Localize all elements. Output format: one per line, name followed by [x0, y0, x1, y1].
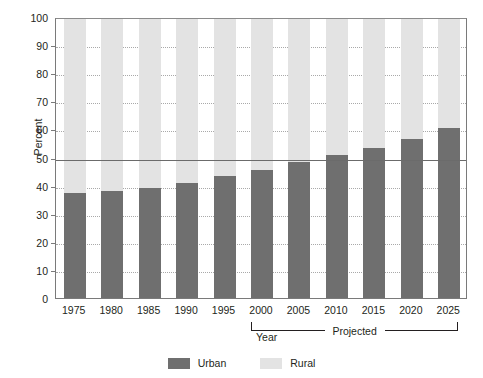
legend-swatch — [260, 358, 282, 369]
y-axis-tick-label: 50 — [6, 154, 48, 164]
bar-segment-urban — [288, 162, 310, 298]
bar-segment-rural — [363, 19, 385, 150]
y-axis-tick-label: 90 — [6, 41, 48, 51]
bar-segment-rural — [139, 19, 161, 190]
legend-label: Rural — [290, 357, 315, 369]
bar-stack — [64, 19, 86, 298]
bar-segment-urban — [64, 193, 86, 298]
bar-segment-rural — [251, 19, 273, 172]
bracket-line-right — [385, 330, 459, 331]
x-axis-tick-label: 1985 — [129, 304, 169, 316]
legend-item: Rural — [260, 357, 315, 369]
bracket-right-tick — [457, 322, 458, 331]
y-axis-tick-label: 20 — [6, 238, 48, 248]
reference-line-50 — [56, 160, 466, 161]
bar-stack — [438, 19, 460, 298]
bar-stack — [176, 19, 198, 298]
bar-chart: Percent 0102030405060708090100 197519801… — [0, 0, 483, 378]
bar-stack — [363, 19, 385, 298]
legend-label: Urban — [198, 357, 227, 369]
bar-segment-urban — [214, 176, 236, 298]
x-axis-title: Year — [256, 331, 277, 343]
bar-segment-urban — [401, 139, 423, 298]
bar-segment-urban — [101, 191, 123, 298]
x-axis-tick-label: 1990 — [166, 304, 206, 316]
plot-inner — [56, 19, 466, 298]
bar-segment-urban — [363, 148, 385, 298]
legend-item: Urban — [168, 357, 227, 369]
chart-legend: UrbanRural — [0, 357, 483, 369]
bracket-label: Projected — [325, 325, 385, 337]
y-axis-tick-label: 70 — [6, 97, 48, 107]
bar-segment-urban — [176, 183, 198, 298]
x-axis-tick-label: 1995 — [204, 304, 244, 316]
bar-segment-rural — [326, 19, 348, 157]
bar-stack — [288, 19, 310, 298]
x-axis-tick-label: 2015 — [353, 304, 393, 316]
bar-segment-rural — [401, 19, 423, 141]
y-axis-tick-label: 40 — [6, 182, 48, 192]
x-axis-tick-label: 2010 — [316, 304, 356, 316]
x-axis-tick-label: 2005 — [278, 304, 318, 316]
y-axis-tick-label: 0 — [6, 294, 48, 304]
x-axis-tick-label: 2025 — [428, 304, 468, 316]
bar-stack — [401, 19, 423, 298]
plot-area — [55, 18, 467, 299]
x-axis-tick-label: 1980 — [91, 304, 131, 316]
legend-swatch — [168, 358, 190, 369]
y-axis-tick-label: 60 — [6, 125, 48, 135]
y-axis-tick-label: 80 — [6, 69, 48, 79]
bar-segment-urban — [438, 128, 460, 298]
bar-segment-rural — [438, 19, 460, 130]
bar-segment-urban — [139, 188, 161, 298]
y-axis-tick-label: 100 — [6, 13, 48, 23]
x-axis-tick-label: 1975 — [54, 304, 94, 316]
bar-segment-urban — [251, 170, 273, 298]
bar-stack — [251, 19, 273, 298]
bar-segment-urban — [326, 155, 348, 298]
bar-stack — [326, 19, 348, 298]
bracket-left-tick — [251, 322, 252, 331]
x-axis-tick-label: 2000 — [241, 304, 281, 316]
bar-segment-rural — [288, 19, 310, 164]
y-axis-tick-label: 10 — [6, 266, 48, 276]
bar-stack — [214, 19, 236, 298]
x-axis-tick-label: 2020 — [391, 304, 431, 316]
bar-stack — [139, 19, 161, 298]
bar-segment-rural — [214, 19, 236, 178]
bar-segment-rural — [101, 19, 123, 193]
projected-bracket-shape: Projected — [251, 322, 458, 331]
bar-stack — [101, 19, 123, 298]
y-axis-tick-label: 30 — [6, 210, 48, 220]
bar-segment-rural — [64, 19, 86, 195]
